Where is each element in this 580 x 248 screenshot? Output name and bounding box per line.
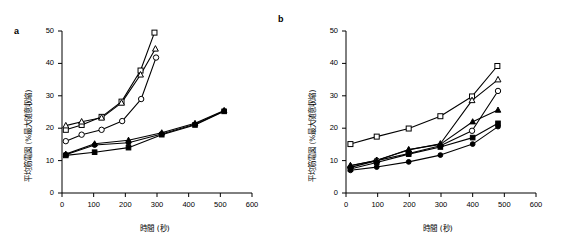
data-point-filled-circle	[126, 140, 131, 145]
x-tick-label: 600	[239, 200, 265, 209]
data-point-filled-circle	[92, 143, 97, 148]
data-point-filled-square	[193, 123, 198, 128]
data-point-filled-square	[159, 132, 164, 137]
data-point-filled-circle	[470, 142, 475, 147]
data-point-open-square	[374, 134, 379, 139]
data-point-filled-square	[222, 109, 227, 114]
x-tick-label: 400	[460, 200, 486, 209]
y-tick-label: 40	[36, 58, 54, 67]
x-tick-label: 0	[49, 200, 75, 209]
data-point-open-square	[495, 63, 500, 68]
y-tick-label: 40	[320, 58, 338, 67]
x-tick-label: 300	[144, 200, 170, 209]
data-point-open-circle	[469, 128, 474, 133]
y-tick-label: 30	[320, 91, 338, 100]
series-line-open-triangle	[66, 49, 156, 126]
panel-b: b 平均筋電図 (%最大随意収縮) 時間 (秒) 010203040500100…	[290, 0, 580, 248]
data-point-open-triangle	[152, 46, 158, 52]
data-point-filled-circle	[406, 159, 411, 164]
x-tick-label: 200	[396, 200, 422, 209]
y-tick-label: 30	[36, 91, 54, 100]
panel-a: a 平均筋電図 (%最大随意収縮) 時間 (秒) 010203040500100…	[0, 0, 290, 248]
data-point-filled-circle	[438, 153, 443, 158]
data-point-open-square	[438, 114, 443, 119]
x-tick-label: 600	[523, 200, 549, 209]
x-tick-label: 0	[333, 200, 359, 209]
series-line-filled-square	[66, 111, 224, 155]
data-point-filled-triangle	[406, 147, 412, 152]
x-tick-label: 500	[207, 200, 233, 209]
data-point-filled-circle	[374, 165, 379, 170]
y-tick-label: 50	[36, 26, 54, 35]
data-point-filled-triangle	[495, 107, 501, 112]
data-point-filled-square	[374, 160, 379, 165]
data-point-open-square	[152, 30, 157, 35]
y-tick-label: 50	[320, 26, 338, 35]
data-point-filled-circle	[348, 168, 353, 173]
y-tick-label: 0	[320, 188, 338, 197]
panel-b-label: b	[278, 14, 284, 24]
data-point-filled-square	[126, 145, 131, 150]
y-tick-label: 10	[36, 156, 54, 165]
data-point-open-circle	[119, 118, 124, 123]
data-point-filled-square	[470, 135, 475, 140]
x-tick-label: 400	[176, 200, 202, 209]
x-tick-label: 100	[365, 200, 391, 209]
data-point-filled-circle	[496, 124, 501, 129]
data-point-open-circle	[79, 132, 84, 137]
data-point-filled-square	[64, 153, 69, 158]
data-point-open-circle	[63, 138, 68, 143]
x-tick-label: 200	[112, 200, 138, 209]
y-tick-label: 0	[36, 188, 54, 197]
series-line-open-square	[66, 33, 155, 130]
x-tick-label: 300	[428, 200, 454, 209]
data-point-open-circle	[495, 88, 500, 93]
data-point-filled-square	[438, 145, 443, 150]
data-point-open-circle	[99, 127, 104, 132]
x-tick-label: 100	[81, 200, 107, 209]
data-point-open-square	[348, 142, 353, 147]
data-point-filled-triangle	[470, 119, 476, 124]
y-tick-label: 10	[320, 156, 338, 165]
data-point-open-square	[406, 126, 411, 131]
figure-root: a 平均筋電図 (%最大随意収縮) 時間 (秒) 010203040500100…	[0, 0, 580, 248]
y-tick-label: 20	[320, 123, 338, 132]
x-tick-label: 500	[491, 200, 517, 209]
y-tick-label: 20	[36, 123, 54, 132]
data-point-open-triangle	[495, 76, 501, 82]
data-point-filled-square	[92, 150, 97, 155]
data-point-filled-square	[406, 152, 411, 157]
series-line-open-square	[350, 66, 497, 144]
data-point-open-circle	[138, 96, 143, 101]
series-line-open-circle	[350, 91, 498, 167]
data-point-open-circle	[153, 55, 158, 60]
